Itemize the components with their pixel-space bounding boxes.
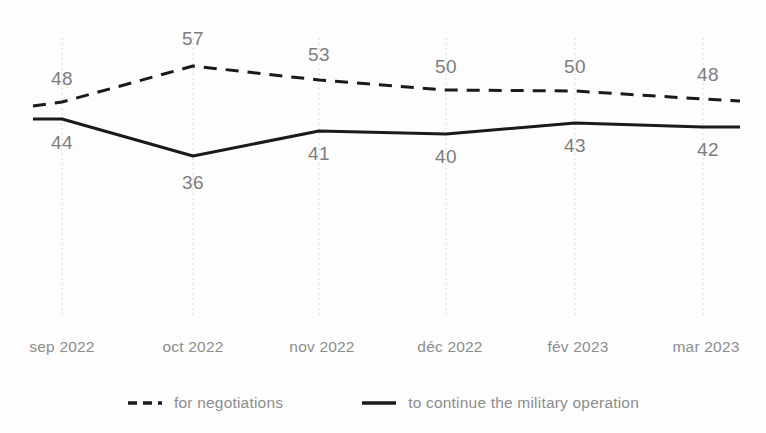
- legend-label-to-continue-the-military-operation: to continue the military operation: [408, 394, 639, 412]
- legend-item-for-negotiations[interactable]: for negotiations: [127, 394, 283, 412]
- gridlines: [62, 38, 703, 318]
- x-tick-mar-2023: mar 2023: [672, 338, 739, 356]
- data-label-for-negotiations-dec-2022: 50: [435, 56, 457, 78]
- x-axis: sep 2022 oct 2022 nov 2022 déc 2022 fév …: [0, 338, 766, 368]
- series-line-to-continue-the-military-operation: [33, 119, 740, 156]
- data-label-for-negotiations-fev-2023: 50: [564, 56, 586, 78]
- data-label-for-negotiations-sep-2022: 48: [51, 68, 73, 90]
- x-tick-fev-2023: fév 2023: [547, 338, 608, 356]
- data-label-to-continue-oct-2022: 36: [182, 172, 204, 194]
- chart-legend: for negotiations to continue the militar…: [0, 388, 766, 418]
- data-label-to-continue-nov-2022: 41: [308, 143, 330, 165]
- series-line-for-negotiations: [33, 66, 740, 106]
- data-label-for-negotiations-oct-2022: 57: [182, 28, 204, 50]
- dashed-line-swatch-icon: [127, 398, 163, 408]
- data-label-to-continue-sep-2022: 44: [51, 132, 73, 154]
- legend-label-for-negotiations: for negotiations: [174, 394, 283, 412]
- x-tick-sep-2022: sep 2022: [29, 338, 94, 356]
- chart-canvas: [0, 0, 766, 320]
- x-tick-dec-2022: déc 2022: [417, 338, 482, 356]
- data-label-to-continue-dec-2022: 40: [435, 146, 457, 168]
- data-label-for-negotiations-nov-2022: 53: [308, 44, 330, 66]
- line-chart: 48 57 53 50 50 48 44 36 41 40 43 42 sep …: [0, 0, 766, 433]
- data-label-to-continue-fev-2023: 43: [564, 135, 586, 157]
- x-tick-oct-2022: oct 2022: [162, 338, 223, 356]
- plot-area: 48 57 53 50 50 48 44 36 41 40 43 42: [0, 0, 766, 320]
- legend-item-to-continue-the-military-operation[interactable]: to continue the military operation: [361, 394, 639, 412]
- data-label-for-negotiations-mar-2023: 48: [697, 64, 719, 86]
- x-tick-nov-2022: nov 2022: [289, 338, 354, 356]
- solid-line-swatch-icon: [361, 398, 397, 408]
- data-label-to-continue-mar-2023: 42: [697, 139, 719, 161]
